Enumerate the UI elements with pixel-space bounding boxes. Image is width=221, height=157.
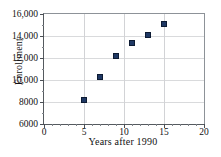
- x-axis-minor-tick: [140, 124, 141, 126]
- y-axis-minor-tick: [42, 69, 44, 70]
- y-axis-minor-tick: [42, 47, 44, 48]
- x-axis-minor-tick: [100, 124, 101, 126]
- y-axis-tick-label: 14,000: [12, 31, 38, 41]
- x-axis-minor-tick: [180, 124, 181, 126]
- x-axis-minor-tick: [132, 124, 133, 126]
- y-axis-tick-label: 16,000: [12, 9, 38, 19]
- data-point: [161, 21, 167, 27]
- gridline-vertical: [124, 14, 125, 124]
- x-axis-minor-tick: [68, 124, 69, 126]
- x-axis-minor-tick: [52, 124, 53, 126]
- x-axis-minor-tick: [188, 124, 189, 126]
- y-axis-tick: [40, 102, 44, 103]
- y-axis-minor-tick: [42, 91, 44, 92]
- x-axis-minor-tick: [156, 124, 157, 126]
- y-axis-tick: [40, 36, 44, 37]
- x-axis-minor-tick: [92, 124, 93, 126]
- x-axis-title: Years after 1990: [40, 136, 206, 147]
- x-axis-minor-tick: [76, 124, 77, 126]
- gridline-vertical: [164, 14, 165, 124]
- y-axis-minor-tick: [42, 25, 44, 26]
- gridline-vertical: [84, 14, 85, 124]
- x-axis-minor-tick: [172, 124, 173, 126]
- data-point: [81, 97, 87, 103]
- x-axis-minor-tick: [148, 124, 149, 126]
- y-axis-tick: [40, 58, 44, 59]
- data-point: [97, 74, 103, 80]
- data-point: [145, 32, 151, 38]
- plot-area: 6000800010,00012,00014,00016,00005101520: [43, 13, 205, 125]
- y-axis-minor-tick: [42, 113, 44, 114]
- y-axis-tick-label: 12,000: [12, 53, 38, 63]
- data-point: [129, 40, 135, 46]
- y-axis-tick: [40, 80, 44, 81]
- x-axis-minor-tick: [60, 124, 61, 126]
- y-axis-tick: [40, 14, 44, 15]
- x-axis-minor-tick: [196, 124, 197, 126]
- enrollment-scatter-chart: Enrollment 6000800010,00012,00014,00016,…: [0, 0, 221, 157]
- x-axis-minor-tick: [116, 124, 117, 126]
- y-axis-tick-label: 6000: [19, 119, 38, 129]
- y-axis-tick-label: 8000: [19, 97, 38, 107]
- data-point: [113, 53, 119, 59]
- y-axis-tick-label: 10,000: [12, 75, 38, 85]
- x-axis-minor-tick: [108, 124, 109, 126]
